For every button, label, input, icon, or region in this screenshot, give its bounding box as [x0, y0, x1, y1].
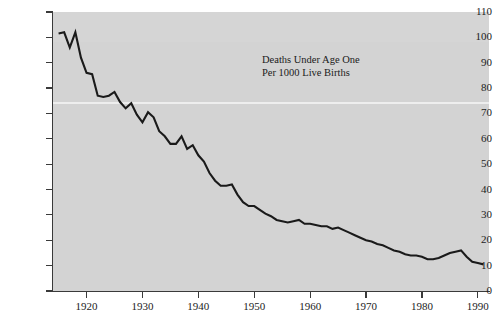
x-tick-mark-1950 — [254, 292, 255, 298]
y-tick-label-30: 30 — [450, 209, 492, 220]
y-tick-label-80: 80 — [450, 82, 492, 93]
scan-artifact-band — [53, 102, 489, 104]
chart-annotation: Deaths Under Age One Per 1000 Live Birth… — [262, 53, 360, 79]
x-tick-label-1950: 1950 — [224, 300, 284, 312]
y-tick-label-60: 60 — [450, 133, 492, 144]
y-tick-label-100: 100 — [450, 31, 492, 42]
y-tick-label-0: 0 — [450, 285, 492, 296]
x-tick-label-1960: 1960 — [280, 300, 340, 312]
y-tick-label-20: 20 — [450, 234, 492, 245]
y-tick-mark-90 — [46, 62, 53, 63]
y-tick-mark-80 — [46, 87, 53, 88]
y-tick-mark-50 — [46, 164, 53, 165]
y-tick-mark-40 — [46, 189, 53, 190]
x-tick-label-1980: 1980 — [392, 300, 452, 312]
x-tick-mark-1970 — [365, 292, 366, 298]
y-tick-mark-0 — [46, 290, 53, 291]
y-tick-label-70: 70 — [450, 107, 492, 118]
x-tick-mark-1990 — [477, 292, 478, 298]
y-tick-mark-30 — [46, 214, 53, 215]
x-tick-label-1940: 1940 — [168, 300, 228, 312]
x-tick-mark-1920 — [86, 292, 87, 298]
y-axis-line — [52, 12, 53, 292]
x-tick-label-1920: 1920 — [57, 300, 117, 312]
annotation-line-1: Deaths Under Age One — [262, 53, 360, 66]
x-tick-mark-1930 — [142, 292, 143, 298]
y-tick-mark-10 — [46, 265, 53, 266]
scan-artifact-band-top — [53, 12, 489, 42]
y-tick-mark-60 — [46, 138, 53, 139]
y-tick-label-90: 90 — [450, 57, 492, 68]
y-tick-mark-20 — [46, 240, 53, 241]
annotation-line-2: Per 1000 Live Births — [262, 66, 360, 79]
x-tick-label-1970: 1970 — [336, 300, 396, 312]
x-tick-label-1930: 1930 — [112, 300, 172, 312]
y-tick-label-10: 10 — [450, 260, 492, 271]
x-axis-line — [52, 291, 490, 292]
y-tick-label-40: 40 — [450, 184, 492, 195]
y-tick-mark-100 — [46, 37, 53, 38]
x-tick-mark-1940 — [198, 292, 199, 298]
x-tick-mark-1960 — [310, 292, 311, 298]
x-tick-label-1990: 1990 — [448, 300, 497, 312]
y-tick-mark-70 — [46, 113, 53, 114]
x-tick-mark-1980 — [421, 292, 422, 298]
y-tick-mark-110 — [46, 11, 53, 12]
y-tick-label-110: 110 — [450, 6, 492, 17]
y-tick-label-50: 50 — [450, 158, 492, 169]
